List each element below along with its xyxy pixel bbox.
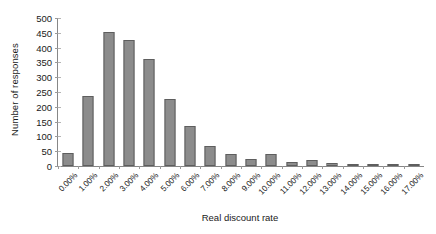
y-axis-tick-label: 350 <box>36 57 52 68</box>
bar-group: 14.00% <box>343 18 363 166</box>
x-axis-tick-label: 10.00% <box>257 171 283 197</box>
y-axis-tick-label: 500 <box>36 13 52 24</box>
x-axis-tick-label: 5.00% <box>159 171 181 193</box>
x-axis-tick-label: 1.00% <box>77 171 99 193</box>
x-axis-tick-label: 13.00% <box>318 171 344 197</box>
x-axis-tick <box>58 166 59 169</box>
bar-chart-figure: Number of responses 05010015020025030035… <box>0 0 436 234</box>
x-axis-tick-label: 2.00% <box>98 171 120 193</box>
bar <box>124 40 135 166</box>
plot-area: 050100150200250300350400450500 0.00%1.00… <box>57 18 424 167</box>
bar <box>388 164 399 166</box>
bar <box>408 164 419 166</box>
y-axis-tick-label: 0 <box>47 161 52 172</box>
bar <box>205 146 216 166</box>
x-axis-tick-label: 16.00% <box>379 171 405 197</box>
bar <box>164 99 175 166</box>
bar <box>286 162 297 166</box>
bar-group: 15.00% <box>363 18 383 166</box>
bar <box>307 160 318 166</box>
y-axis-tick-label: 200 <box>36 101 52 112</box>
bar <box>225 154 236 166</box>
bar-group: 6.00% <box>180 18 200 166</box>
x-axis-tick-label: 17.00% <box>400 171 426 197</box>
bar-group: 11.00% <box>282 18 302 166</box>
x-axis-tick <box>343 166 344 169</box>
x-axis-tick <box>200 166 201 169</box>
x-axis-tick <box>322 166 323 169</box>
bar-group: 10.00% <box>261 18 281 166</box>
x-axis-tick <box>282 166 283 169</box>
x-axis-tick <box>99 166 100 169</box>
bar <box>103 32 114 166</box>
bar-group: 3.00% <box>119 18 139 166</box>
y-axis-tick-label: 300 <box>36 72 52 83</box>
bar <box>368 164 379 166</box>
x-axis-title: Real discount rate <box>57 212 423 223</box>
x-axis-tick <box>404 166 405 169</box>
bar-group: 17.00% <box>404 18 424 166</box>
y-axis-tick-label: 250 <box>36 87 52 98</box>
x-axis-tick <box>180 166 181 169</box>
bar-group: 2.00% <box>99 18 119 166</box>
y-axis-title: Number of responses <box>9 30 20 150</box>
x-axis-tick-label: 8.00% <box>220 171 242 193</box>
y-axis-tick-label: 150 <box>36 116 52 127</box>
x-axis-tick <box>119 166 120 169</box>
bar-group: 7.00% <box>200 18 220 166</box>
bar-group: 5.00% <box>160 18 180 166</box>
bar <box>266 154 277 166</box>
bar <box>144 59 155 166</box>
y-axis-tick-label: 450 <box>36 27 52 38</box>
y-axis-tick-label: 400 <box>36 42 52 53</box>
y-axis-tick-label: 100 <box>36 131 52 142</box>
x-axis-tick <box>139 166 140 169</box>
x-axis-tick <box>302 166 303 169</box>
bar <box>63 153 74 166</box>
bar-group: 12.00% <box>302 18 322 166</box>
x-axis-tick <box>221 166 222 169</box>
x-axis-tick <box>78 166 79 169</box>
y-axis-tick-label: 50 <box>41 146 52 157</box>
x-axis-tick-label: 7.00% <box>199 171 221 193</box>
bar-group: 1.00% <box>78 18 98 166</box>
x-axis-tick-label: 6.00% <box>179 171 201 193</box>
bar <box>246 159 257 166</box>
bar-group: 0.00% <box>58 18 78 166</box>
x-axis-tick-label: 0.00% <box>57 171 79 193</box>
bars-layer: 0.00%1.00%2.00%3.00%4.00%5.00%6.00%7.00%… <box>58 18 424 166</box>
x-axis-tick <box>261 166 262 169</box>
bar-group: 13.00% <box>322 18 342 166</box>
x-axis-tick <box>383 166 384 169</box>
x-axis-tick <box>241 166 242 169</box>
bar <box>347 164 358 166</box>
bar <box>327 163 338 166</box>
x-axis-tick-label: 4.00% <box>138 171 160 193</box>
bar-group: 8.00% <box>221 18 241 166</box>
x-axis-tick-label: 3.00% <box>118 171 140 193</box>
bar-group: 9.00% <box>241 18 261 166</box>
x-axis-tick <box>160 166 161 169</box>
bar <box>185 126 196 166</box>
bar-group: 4.00% <box>139 18 159 166</box>
bar <box>83 96 94 166</box>
bar-group: 16.00% <box>383 18 403 166</box>
x-axis-tick <box>363 166 364 169</box>
